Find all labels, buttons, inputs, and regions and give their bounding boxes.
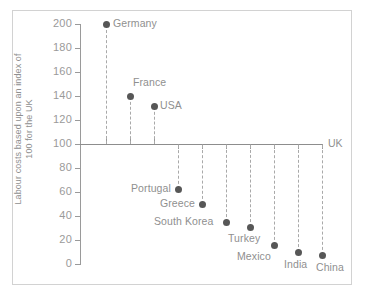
y-tick-label-160: 160 xyxy=(42,65,72,77)
y-tick-mark-200 xyxy=(75,24,80,25)
y-axis-title: Labour costs based upon an index of 100 … xyxy=(13,19,35,239)
uk-reference-label: UK xyxy=(328,137,343,149)
y-tick-label-40: 40 xyxy=(42,209,72,221)
y-tick-mark-40 xyxy=(75,216,80,217)
stem-portugal xyxy=(178,145,179,189)
y-tick-label-80: 80 xyxy=(42,161,72,173)
y-tick-label-140: 140 xyxy=(42,89,72,101)
data-point-india[interactable] xyxy=(295,249,302,256)
stem-china xyxy=(322,145,323,255)
data-label-turkey: Turkey xyxy=(228,232,260,244)
y-tick-mark-160 xyxy=(75,72,80,73)
data-point-turkey[interactable] xyxy=(247,224,254,231)
data-label-india: India xyxy=(284,258,307,270)
data-label-portugal: Portugal xyxy=(131,182,171,194)
y-axis-title-line1: Labour costs based upon an index of xyxy=(13,53,23,204)
y-tick-label-60: 60 xyxy=(42,185,72,197)
y-tick-mark-80 xyxy=(75,168,80,169)
stem-france xyxy=(130,97,131,144)
y-tick-mark-180 xyxy=(75,48,80,49)
stem-turkey xyxy=(250,145,251,227)
data-point-usa[interactable] xyxy=(151,103,158,110)
data-point-portugal[interactable] xyxy=(175,186,182,193)
y-tick-mark-20 xyxy=(75,240,80,241)
y-axis-title-line2: 100 for the UK xyxy=(24,99,34,158)
y-tick-label-100: 100 xyxy=(42,137,72,149)
data-point-china[interactable] xyxy=(319,252,326,259)
stem-usa xyxy=(154,107,155,144)
data-point-germany[interactable] xyxy=(103,21,110,28)
y-tick-mark-140 xyxy=(75,96,80,97)
y-tick-mark-120 xyxy=(75,120,80,121)
y-tick-mark-0 xyxy=(75,264,80,265)
stem-germany xyxy=(106,25,107,144)
data-label-usa: USA xyxy=(160,99,182,111)
y-tick-label-200: 200 xyxy=(42,17,72,29)
y-tick-label-180: 180 xyxy=(42,41,72,53)
data-label-south-korea: South Korea xyxy=(154,215,213,227)
data-point-france[interactable] xyxy=(127,93,134,100)
stem-south-korea xyxy=(226,145,227,222)
data-label-france: France xyxy=(133,76,166,88)
stem-greece xyxy=(202,145,203,204)
y-tick-label-20: 20 xyxy=(42,233,72,245)
stem-mexico xyxy=(274,145,275,245)
y-tick-label-120: 120 xyxy=(42,113,72,125)
data-label-mexico: Mexico xyxy=(237,250,271,262)
y-tick-label-0: 0 xyxy=(42,257,72,269)
data-point-greece[interactable] xyxy=(199,201,206,208)
chart-plot-area: Labour costs based upon an index of 100 … xyxy=(0,0,366,293)
data-label-greece: Greece xyxy=(160,197,195,209)
y-tick-mark-60 xyxy=(75,192,80,193)
stem-india xyxy=(298,145,299,252)
data-label-germany: Germany xyxy=(113,17,157,29)
chart-figure: Labour costs based upon an index of 100 … xyxy=(0,0,366,293)
data-point-south-korea[interactable] xyxy=(223,219,230,226)
data-label-china: China xyxy=(316,261,344,273)
data-point-mexico[interactable] xyxy=(271,242,278,249)
